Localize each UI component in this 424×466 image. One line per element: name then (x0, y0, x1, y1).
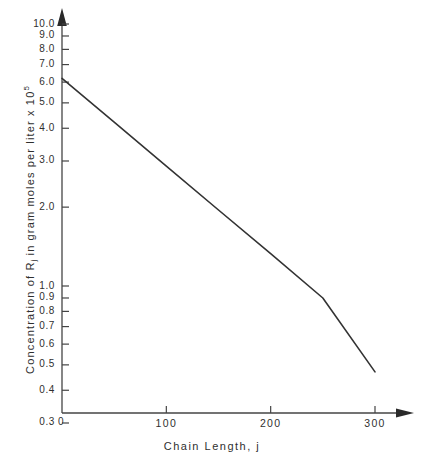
y-tick-label: 5.0 (9, 96, 55, 107)
y-tick-label: 9.0 (9, 29, 55, 40)
y-tick-label: 8.0 (9, 43, 55, 54)
chart-figure: Concentration of Rj in gram moles per li… (0, 0, 424, 466)
y-axis (57, 8, 67, 413)
x-tick-label: 0 (32, 416, 92, 427)
y-tick-label: 0.4 (9, 384, 55, 395)
data-series-line (62, 78, 375, 372)
y-tick-label: 10.0 (9, 18, 55, 29)
x-tick-label: 300 (345, 417, 405, 429)
y-tick-label: 2.0 (9, 201, 55, 212)
y-axis-arrowhead (57, 8, 67, 26)
y-tick-label: 0.5 (9, 358, 55, 369)
y-tick-label: 0.8 (9, 305, 55, 316)
y-tick-label: 3.0 (9, 154, 55, 165)
y-tick-label: 4.0 (9, 122, 55, 133)
y-tick-label: 0.9 (9, 291, 55, 302)
y-tick-label: 7.0 (9, 58, 55, 69)
y-tick-label: 1.0 (9, 280, 55, 291)
y-tick-label: 0.7 (9, 320, 55, 331)
y-tick-label: 0.6 (9, 338, 55, 349)
plot-area (0, 0, 424, 466)
x-tick-label: 200 (241, 417, 301, 429)
x-tick-label: 100 (136, 417, 196, 429)
y-tick-label: 6.0 (9, 76, 55, 87)
x-axis-ticks (166, 406, 375, 413)
